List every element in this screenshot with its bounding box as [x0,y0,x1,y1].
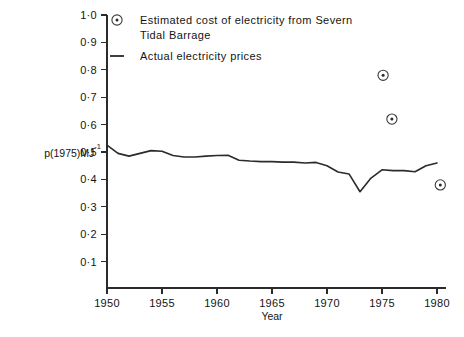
x-tick-label: 1975 [369,297,395,309]
y-tick-label: 0·8 [80,64,97,76]
x-tick-label: 1980 [424,297,450,309]
chart-figure: 0·10·20·30·40·50·60·70·80·91·0 195019551… [0,0,464,337]
y-tick-label: 1·0 [80,9,97,21]
legend-label: Estimated cost of electricity from Sever… [140,14,353,26]
x-axis-title: Year [261,310,283,322]
y-tick-label: 0·1 [80,256,97,268]
x-tick-label: 1970 [314,297,340,309]
y-tick-label: 0·7 [80,91,97,103]
y-tick-label: 0·2 [80,228,97,240]
x-tick-label: 1965 [259,297,285,309]
y-tick-label: 0·3 [80,201,97,213]
x-tick-label: 1955 [149,297,175,309]
legend-label: Actual electricity prices [140,50,262,62]
severn-tidal-barrage-line-chart: 0·10·20·30·40·50·60·70·80·91·0 195019551… [0,0,464,337]
y-tick-label: 0·9 [80,36,97,48]
y-tick-label: 0·4 [80,173,97,185]
y-tick-label: 0·6 [80,119,97,131]
x-tick-label: 1950 [94,297,120,309]
x-tick-label: 1960 [204,297,230,309]
legend-label: Tidal Barrage [140,29,211,41]
